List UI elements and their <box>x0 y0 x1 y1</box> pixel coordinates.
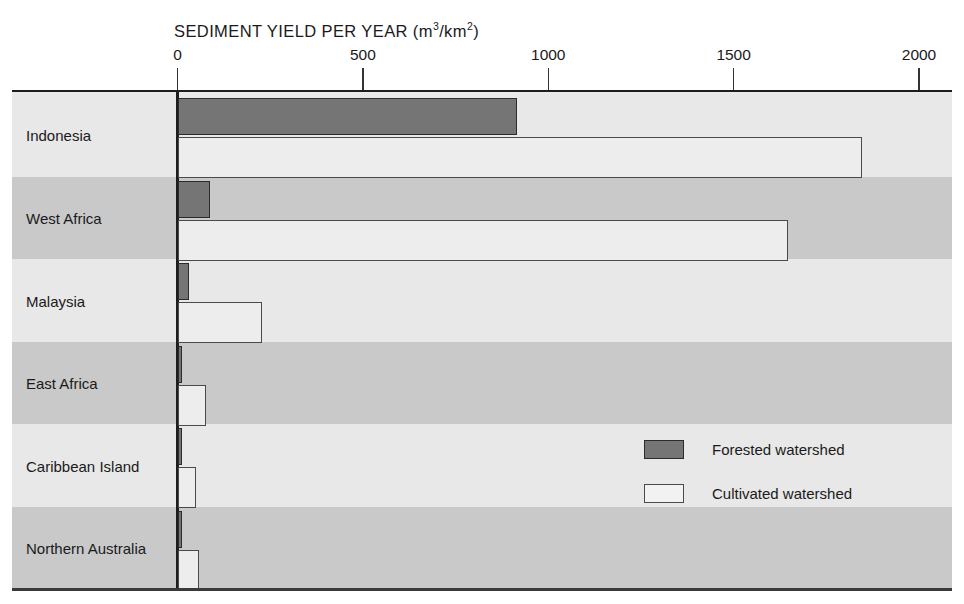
bar-cultivated-malaysia <box>178 302 262 343</box>
bar-cultivated-caribbean-island <box>178 467 197 508</box>
legend-label-forested: Forested watershed <box>712 441 845 458</box>
chart-title-main: SEDIMENT YIELD PER YEAR (m <box>174 22 433 40</box>
bar-cultivated-northern-australia <box>178 550 199 591</box>
x-tick-label-1000: 1000 <box>531 46 565 64</box>
legend-item: Cultivated watershed <box>644 482 852 504</box>
category-band <box>12 259 952 342</box>
category-label-caribbean-island: Caribbean Island <box>26 457 139 474</box>
x-tick-mark-0 <box>177 68 179 90</box>
legend-item: Forested watershed <box>644 438 852 460</box>
chart-title: SEDIMENT YIELD PER YEAR (m3/km2) <box>174 20 479 41</box>
category-label-malaysia: Malaysia <box>26 292 85 309</box>
x-tick-label-0: 0 <box>173 46 182 64</box>
bar-cultivated-indonesia <box>178 137 862 178</box>
bar-forested-indonesia <box>178 98 517 135</box>
legend-label-cultivated: Cultivated watershed <box>712 485 852 502</box>
bar-forested-malaysia <box>178 263 190 300</box>
legend-swatch-cultivated <box>644 484 684 503</box>
bar-forested-east-africa <box>178 346 182 383</box>
chart-root: SEDIMENT YIELD PER YEAR (m3/km2) 0500100… <box>0 0 964 604</box>
x-axis-tick-labels: 0500100015002000 <box>0 46 964 68</box>
category-label-east-africa: East Africa <box>26 375 98 392</box>
x-tick-label-2000: 2000 <box>902 46 936 64</box>
bar-forested-west-africa <box>178 181 211 218</box>
legend-swatch-forested <box>644 440 684 459</box>
chart-title-mid: /km <box>439 22 467 40</box>
category-label-northern-australia: Northern Australia <box>26 540 146 557</box>
x-tick-mark-1500 <box>733 68 735 90</box>
bar-cultivated-west-africa <box>178 220 788 261</box>
category-band <box>12 342 952 425</box>
x-tick-mark-2000 <box>918 68 920 90</box>
x-tick-mark-1000 <box>548 68 550 90</box>
chart-legend: Forested watershedCultivated watershed <box>644 438 852 526</box>
x-tick-label-1500: 1500 <box>716 46 750 64</box>
bar-forested-caribbean-island <box>178 428 182 465</box>
x-tick-mark-500 <box>362 68 364 90</box>
category-label-indonesia: Indonesia <box>26 127 91 144</box>
x-tick-label-500: 500 <box>350 46 376 64</box>
bar-cultivated-east-africa <box>178 385 206 426</box>
category-label-west-africa: West Africa <box>26 209 102 226</box>
bar-forested-northern-australia <box>178 511 182 548</box>
x-axis-line-bottom <box>12 588 952 591</box>
chart-title-end: ) <box>473 22 479 40</box>
